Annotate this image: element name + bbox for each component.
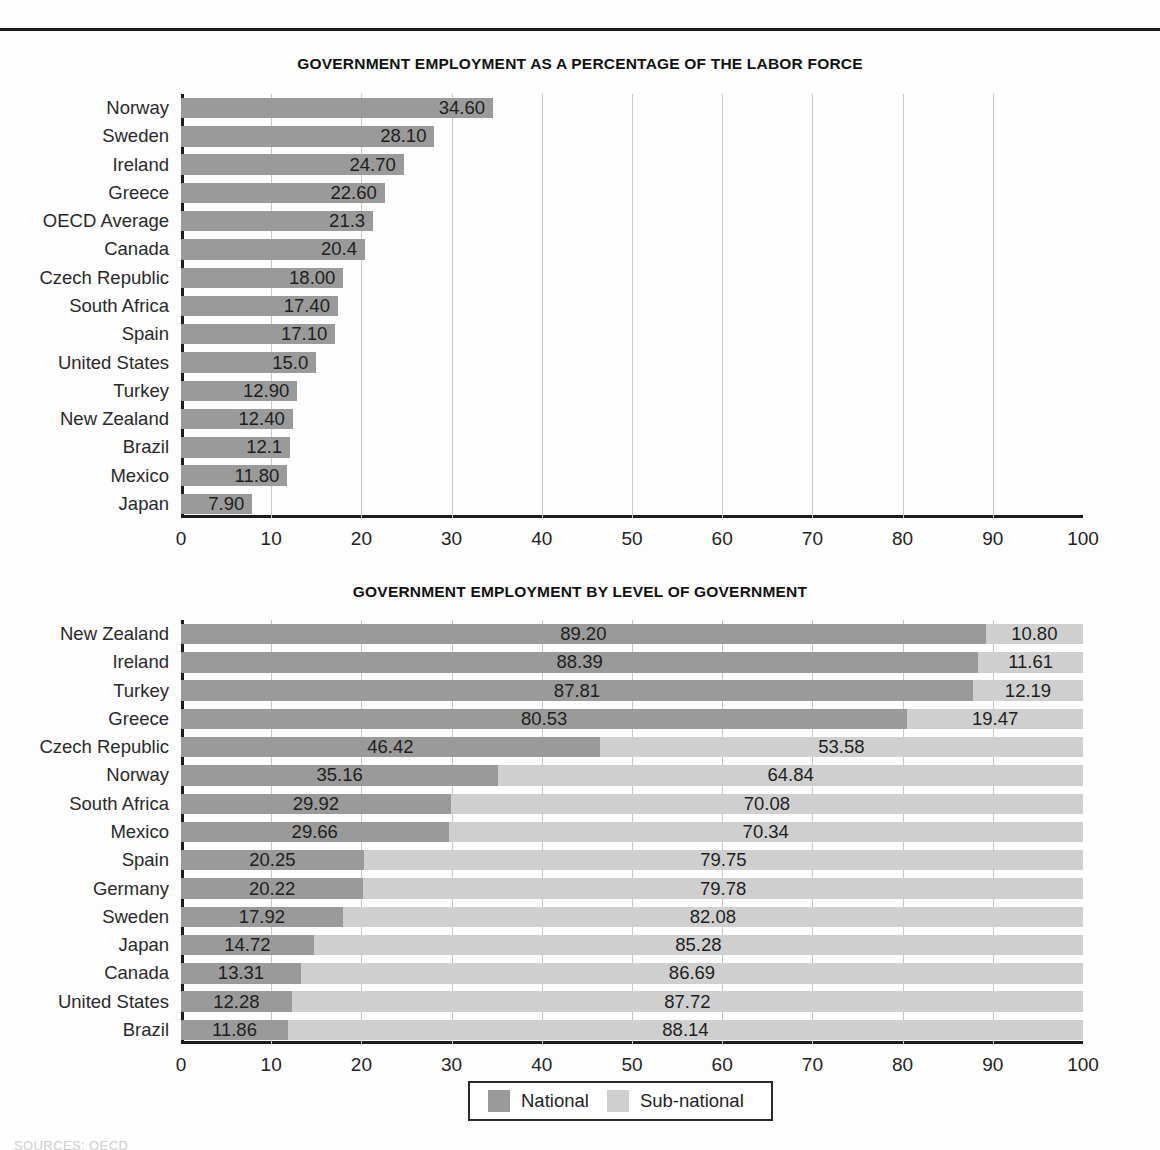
x-tick-label: 40	[531, 1054, 552, 1076]
header-rule	[0, 28, 1160, 31]
x-tick-label: 70	[802, 528, 823, 550]
x-tick-label: 0	[176, 528, 187, 550]
gridline	[812, 94, 813, 518]
x-tick-label: 90	[982, 528, 1003, 550]
bar-value-label: 7.90	[208, 493, 244, 515]
category-label: Czech Republic	[39, 736, 169, 758]
bar-value-label: 88.14	[662, 1019, 708, 1041]
bar-value-label: 28.10	[380, 125, 426, 147]
x-tick-label: 20	[351, 1054, 372, 1076]
category-label: Mexico	[110, 821, 169, 843]
bar-value-label: 70.34	[743, 821, 789, 843]
gridline	[722, 94, 723, 518]
gridline	[993, 94, 994, 518]
bar-value-label: 79.75	[700, 849, 746, 871]
bar-value-label: 53.58	[818, 736, 864, 758]
x-tick-label: 0	[176, 1054, 187, 1076]
x-tick-label: 50	[621, 1054, 642, 1076]
bar-value-label: 80.53	[521, 708, 567, 730]
bar-value-label: 82.08	[690, 906, 736, 928]
bar-value-label: 12.40	[239, 408, 285, 430]
bar-value-label: 64.84	[767, 764, 813, 786]
category-label: Germany	[93, 878, 169, 900]
category-label: United States	[58, 352, 169, 374]
bar-value-label: 87.81	[554, 680, 600, 702]
bar-value-label: 13.31	[218, 962, 264, 984]
legend-label: Sub-national	[640, 1090, 744, 1112]
bar-value-label: 35.16	[316, 764, 362, 786]
chart2-title: GOVERNMENT EMPLOYMENT BY LEVEL OF GOVERN…	[0, 583, 1160, 601]
category-label: Sweden	[102, 906, 169, 928]
category-label: Turkey	[113, 680, 169, 702]
bar-value-label: 17.10	[281, 323, 327, 345]
gridline	[632, 94, 633, 518]
bar-value-label: 86.69	[669, 962, 715, 984]
bar-value-label: 12.90	[243, 380, 289, 402]
x-tick-label: 20	[351, 528, 372, 550]
category-label: Turkey	[113, 380, 169, 402]
bar-value-label: 12.28	[213, 991, 259, 1013]
legend-item: National	[488, 1090, 589, 1112]
bar-value-label: 29.92	[293, 793, 339, 815]
bar-value-label: 20.25	[249, 849, 295, 871]
x-tick-label: 80	[892, 528, 913, 550]
bar-value-label: 20.4	[321, 238, 357, 260]
bar-value-label: 87.72	[664, 991, 710, 1013]
x-tick-label: 90	[982, 1054, 1003, 1076]
category-label: Norway	[106, 764, 169, 786]
category-label: Greece	[108, 182, 169, 204]
bar-value-label: 12.1	[246, 436, 282, 458]
bar-value-label: 10.80	[1011, 623, 1057, 645]
x-tick-label: 40	[531, 528, 552, 550]
bar-value-label: 46.42	[367, 736, 413, 758]
bar-value-label: 79.78	[700, 878, 746, 900]
x-tick-label: 100	[1067, 1054, 1099, 1076]
page-canvas: GOVERNMENT EMPLOYMENT AS A PERCENTAGE OF…	[0, 0, 1160, 1150]
legend-swatch-icon	[488, 1090, 510, 1112]
category-label: Czech Republic	[39, 267, 169, 289]
x-tick-label: 80	[892, 1054, 913, 1076]
bar-value-label: 14.72	[224, 934, 270, 956]
category-label: Brazil	[123, 436, 169, 458]
bar-value-label: 11.86	[212, 1019, 257, 1041]
bar-value-label: 24.70	[349, 154, 395, 176]
bar-value-label: 70.08	[744, 793, 790, 815]
bar-value-label: 12.19	[1005, 680, 1051, 702]
category-label: Japan	[119, 934, 169, 956]
x-tick-label: 60	[712, 528, 733, 550]
bar-value-label: 18.00	[289, 267, 335, 289]
chart2-legend: NationalSub-national	[468, 1081, 773, 1121]
category-label: South Africa	[69, 295, 169, 317]
bar-value-label: 34.60	[439, 97, 485, 119]
bar-value-label: 20.22	[249, 878, 295, 900]
x-tick-label: 60	[712, 1054, 733, 1076]
x-tick-label: 10	[261, 528, 282, 550]
bar-value-label: 15.0	[272, 352, 308, 374]
x-tick-label: 70	[802, 1054, 823, 1076]
x-tick-label: 30	[441, 1054, 462, 1076]
category-label: New Zealand	[60, 408, 169, 430]
category-label: Norway	[106, 97, 169, 119]
chart2-plot-area: 89.2010.8088.3911.6187.8112.1980.5319.47…	[181, 620, 1083, 1044]
bar-value-label: 11.80	[234, 465, 279, 487]
gridline	[542, 94, 543, 518]
category-label: Spain	[122, 849, 169, 871]
bar-value-label: 17.40	[284, 295, 330, 317]
category-label: Greece	[108, 708, 169, 730]
x-tick-label: 30	[441, 528, 462, 550]
category-label: United States	[58, 991, 169, 1013]
category-label: Sweden	[102, 125, 169, 147]
bar-value-label: 22.60	[331, 182, 377, 204]
chart1-title: GOVERNMENT EMPLOYMENT AS A PERCENTAGE OF…	[0, 55, 1160, 73]
legend-label: National	[521, 1090, 589, 1112]
bar-value-label: 21.3	[329, 210, 365, 232]
category-label: Ireland	[112, 154, 169, 176]
category-label: Spain	[122, 323, 169, 345]
bar-value-label: 88.39	[556, 651, 602, 673]
x-tick-label: 10	[261, 1054, 282, 1076]
category-label: OECD Average	[43, 210, 169, 232]
legend-swatch-icon	[607, 1090, 629, 1112]
category-label: Canada	[104, 238, 169, 260]
legend-item: Sub-national	[607, 1090, 744, 1112]
bar-value-label: 29.66	[292, 821, 338, 843]
